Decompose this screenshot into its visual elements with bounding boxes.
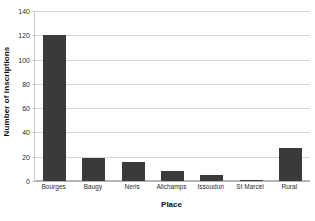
bar-chart: Number of Inscriptions 02040608010012014… [0, 0, 315, 221]
gridline [35, 181, 310, 182]
x-axis-tick-labels: BourgesBaugyNerisAlichampsIssoudunSt Mar… [34, 183, 309, 197]
x-axis-tick-label: St Marcel [230, 183, 269, 190]
bar [200, 175, 223, 181]
y-axis-tick-label: 120 [18, 32, 30, 39]
bar-slot [153, 11, 192, 181]
bar-slot [192, 11, 231, 181]
y-axis-title-text: Number of Inscriptions [3, 47, 12, 137]
bar-slot [74, 11, 113, 181]
x-axis-tick-label: Alichamps [152, 183, 191, 190]
bar-slot [231, 11, 270, 181]
y-axis-tick-label: 100 [18, 56, 30, 63]
y-axis-tick-label: 140 [18, 8, 30, 15]
plot-area [34, 11, 310, 181]
x-axis-tick-label: Baugy [73, 183, 112, 190]
y-axis-title: Number of Inscriptions [0, 0, 14, 183]
y-axis-tick-label: 0 [26, 178, 30, 185]
bar [240, 180, 263, 182]
y-axis-tick-label: 60 [22, 105, 30, 112]
x-axis-title: Place [34, 200, 309, 209]
x-axis-tick-label: Issoudun [191, 183, 230, 190]
x-axis-tick-label: Rural [270, 183, 309, 190]
bar [43, 35, 66, 181]
bar-slot [35, 11, 74, 181]
bars-layer [35, 11, 310, 181]
y-axis-tick-mark [32, 181, 35, 182]
x-axis-tick-label: Bourges [34, 183, 73, 190]
bar-slot [114, 11, 153, 181]
x-axis-tick-label: Neris [113, 183, 152, 190]
y-axis-tick-label: 20 [22, 153, 30, 160]
bar [122, 162, 145, 181]
y-axis-tick-label: 40 [22, 129, 30, 136]
bar [279, 148, 302, 181]
bar [161, 171, 184, 181]
bar [82, 158, 105, 181]
y-axis-tick-label: 80 [22, 80, 30, 87]
y-axis-tick-labels: 020406080100120140 [14, 0, 32, 183]
bar-slot [271, 11, 310, 181]
